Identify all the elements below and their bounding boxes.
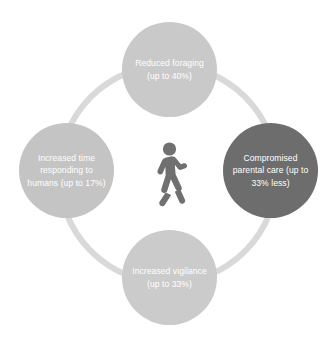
cycle-node-label: Increased time responding to humans (up …: [19, 152, 114, 189]
cycle-node-reduced-foraging[interactable]: Reduced foraging (up to 40%): [122, 22, 217, 117]
cycle-node-increased-vigilance[interactable]: Increased vigilance (up to 33%): [122, 230, 217, 325]
cycle-node-label: Increased vigilance (up to 33%): [122, 265, 217, 290]
cycle-node-label: Reduced foraging (up to 40%): [122, 57, 217, 82]
walking-person-icon: [152, 142, 188, 208]
cycle-node-increased-time-responding[interactable]: Increased time responding to humans (up …: [19, 123, 114, 218]
cycle-diagram: Reduced foraging (up to 40%) Compromised…: [0, 0, 336, 348]
cycle-node-label: Compromised parental care (up to 33% les…: [223, 152, 318, 189]
cycle-node-compromised-parental-care[interactable]: Compromised parental care (up to 33% les…: [223, 123, 318, 218]
